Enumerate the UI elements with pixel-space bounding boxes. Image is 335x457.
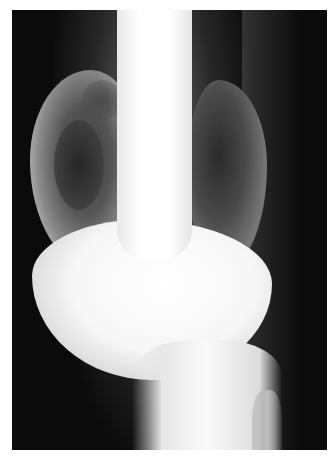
radiograph-image (12, 10, 327, 450)
fibula (252, 390, 282, 450)
femur-shaft (117, 10, 192, 260)
lytic-cavity (54, 120, 104, 210)
lytic-cavity (82, 80, 122, 120)
